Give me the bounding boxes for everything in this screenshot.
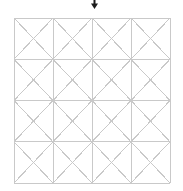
canvas-stage bbox=[0, 0, 183, 191]
grid-with-diagonals-figure bbox=[0, 0, 183, 191]
